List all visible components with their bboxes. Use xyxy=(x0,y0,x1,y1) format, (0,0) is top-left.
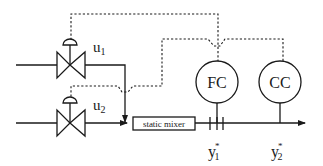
static-mixer-label: static mixer xyxy=(143,119,185,129)
valve-1-label: u1 xyxy=(93,39,106,57)
control-valve-1-icon xyxy=(57,39,85,78)
fc-label: FC xyxy=(207,74,227,91)
concentration-controller: CC xyxy=(259,61,301,123)
flow-controller: FC xyxy=(196,61,238,123)
y2-star-label: y*2 xyxy=(271,141,283,162)
process-diagram: u1 u2 static mixer FC CC y*1 y*2 xyxy=(0,0,323,166)
static-mixer: static mixer xyxy=(133,117,195,130)
control-valve-2-icon xyxy=(57,97,85,136)
y1-star-label: y*1 xyxy=(208,141,220,162)
cc-label: CC xyxy=(269,74,290,91)
valve-2-label: u2 xyxy=(93,97,106,115)
